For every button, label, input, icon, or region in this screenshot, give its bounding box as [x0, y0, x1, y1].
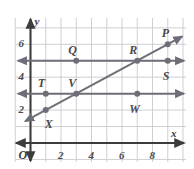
y-axis-name: y [35, 16, 40, 27]
point-label-X: X [45, 118, 53, 130]
graph-figure: PQRSTVWX2468246yxO [0, 0, 194, 169]
point-label-V: V [68, 77, 76, 89]
point-P [165, 41, 171, 47]
point-label-R: R [129, 44, 137, 56]
y-tick-label-4: 4 [19, 71, 25, 82]
x-tick-label-8: 8 [150, 150, 156, 161]
point-label-Q: Q [68, 44, 77, 56]
point-V [73, 91, 79, 97]
point-T [43, 91, 49, 97]
axis-lines [16, 19, 184, 161]
origin-label: O [19, 149, 28, 161]
x-axis-name: x [171, 128, 177, 139]
point-label-W: W [129, 103, 140, 115]
grid-lines [15, 18, 186, 162]
y-tick-label-2: 2 [19, 104, 25, 115]
point-label-P: P [162, 27, 169, 39]
x-tick-label-4: 4 [89, 150, 95, 161]
point-R [134, 58, 140, 64]
x-tick-label-6: 6 [119, 150, 125, 161]
point-label-T: T [38, 77, 45, 89]
point-label-S: S [163, 70, 170, 82]
y-tick-label-6: 6 [19, 38, 25, 49]
point-S [165, 58, 171, 64]
line-slanted-line [25, 36, 182, 121]
point-X [43, 107, 49, 113]
x-tick-label-2: 2 [58, 150, 64, 161]
point-W [134, 91, 140, 97]
point-Q [73, 58, 79, 64]
